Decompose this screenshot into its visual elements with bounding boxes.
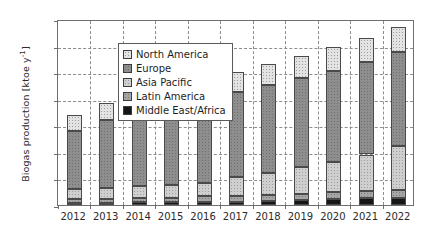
x-tick-mark-7 (285, 205, 286, 209)
bar-2012[interactable] (67, 19, 82, 205)
bar-segment-2020-middle-east-africa[interactable] (326, 199, 341, 205)
bar-2019[interactable] (294, 19, 309, 205)
x-tick-mark-3 (155, 205, 156, 209)
bar-2018[interactable] (261, 19, 276, 205)
bar-segment-2019-middle-east-africa[interactable] (294, 200, 309, 205)
bar-segment-2014-asia-pacific[interactable] (132, 186, 147, 198)
bar-segment-2019-latin-america[interactable] (294, 194, 309, 200)
y-tick-mark-5 (54, 180, 58, 181)
bar-segment-2022-north-america[interactable] (391, 27, 406, 53)
bar-segment-2018-middle-east-africa[interactable] (261, 201, 276, 205)
bar-segment-2012-europe[interactable] (67, 131, 82, 189)
bar-2013[interactable] (99, 19, 114, 205)
legend-item-asia-pacific[interactable]: Asia Pacific (123, 75, 226, 89)
bar-segment-2012-asia-pacific[interactable] (67, 189, 82, 199)
y-tick-mark-10 (54, 154, 58, 155)
x-tick-mark-8 (318, 205, 319, 209)
x-tick-mark-6 (253, 205, 254, 209)
bar-segment-2021-middle-east-africa[interactable] (359, 198, 374, 205)
bar-segment-2018-asia-pacific[interactable] (261, 173, 276, 195)
legend-item-latin-america[interactable]: Latin America (123, 89, 226, 103)
legend-item-europe[interactable]: Europe (123, 61, 226, 75)
legend-item-north-america[interactable]: North America (123, 47, 226, 61)
bar-2021[interactable] (359, 19, 374, 205)
bar-segment-2016-middle-east-africa[interactable] (197, 202, 212, 205)
bar-segment-2022-asia-pacific[interactable] (391, 146, 406, 190)
legend-item-middle-east-africa[interactable]: Middle East/Africa (123, 103, 226, 117)
bar-segment-2020-asia-pacific[interactable] (326, 162, 341, 192)
legend-label: Latin America (136, 91, 205, 102)
bar-segment-2018-latin-america[interactable] (261, 195, 276, 201)
legend-swatch-icon (123, 64, 132, 73)
bar-segment-2017-asia-pacific[interactable] (229, 177, 244, 196)
y-axis-title: Biogas production [ktoe y-1] (19, 19, 31, 209)
bar-segment-2022-middle-east-africa[interactable] (391, 198, 406, 205)
y-axis-title-tail: ] (20, 46, 31, 50)
legend: North AmericaEuropeAsia PacificLatin Ame… (118, 43, 233, 121)
bar-segment-2021-north-america[interactable] (359, 38, 374, 62)
x-tick-mark-10 (383, 205, 384, 209)
x-tick-mark-5 (220, 205, 221, 209)
x-tick-label-2022: 2022 (375, 211, 421, 222)
bar-segment-2015-middle-east-africa[interactable] (164, 202, 179, 205)
legend-label: North America (136, 49, 208, 60)
bar-segment-2016-asia-pacific[interactable] (197, 183, 212, 197)
bar-segment-2019-europe[interactable] (294, 78, 309, 167)
bar-segment-2013-europe[interactable] (99, 120, 114, 188)
bar-segment-2014-latin-america[interactable] (132, 198, 147, 203)
bar-segment-2015-asia-pacific[interactable] (164, 185, 179, 198)
legend-label: Europe (136, 63, 171, 74)
y-tick-mark-30 (54, 48, 58, 49)
bar-segment-2021-asia-pacific[interactable] (359, 155, 374, 191)
y-axis-title-text: Biogas production [ktoe y (20, 57, 31, 182)
bar-segment-2021-latin-america[interactable] (359, 191, 374, 198)
bar-segment-2020-latin-america[interactable] (326, 192, 341, 199)
y-tick-mark-15 (54, 127, 58, 128)
legend-swatch-icon (123, 92, 132, 101)
bar-segment-2017-middle-east-africa[interactable] (229, 202, 244, 205)
bar-segment-2018-north-america[interactable] (261, 64, 276, 85)
x-tick-mark-9 (350, 205, 351, 209)
x-tick-mark-4 (188, 205, 189, 209)
y-tick-mark-35 (54, 21, 58, 22)
biogas-production-chart: Biogas production [ktoe y-1] North Ameri… (0, 0, 424, 236)
bar-segment-2020-europe[interactable] (326, 71, 341, 162)
bar-segment-2012-middle-east-africa[interactable] (67, 203, 82, 205)
legend-label: Asia Pacific (136, 77, 192, 88)
bar-segment-2013-latin-america[interactable] (99, 199, 114, 203)
x-tick-mark-2 (123, 205, 124, 209)
bar-segment-2017-latin-america[interactable] (229, 196, 244, 201)
x-tick-mark-1 (90, 205, 91, 209)
bar-segment-2020-north-america[interactable] (326, 47, 341, 70)
legend-swatch-icon (123, 78, 132, 87)
bar-segment-2022-latin-america[interactable] (391, 190, 406, 198)
bar-segment-2019-asia-pacific[interactable] (294, 167, 309, 194)
bars-container (58, 21, 413, 205)
y-axis-title-exponent: -1 (19, 50, 27, 57)
bar-2020[interactable] (326, 19, 341, 205)
bar-segment-2016-latin-america[interactable] (197, 196, 212, 201)
bar-segment-2012-north-america[interactable] (67, 115, 82, 131)
bar-segment-2013-north-america[interactable] (99, 103, 114, 120)
legend-swatch-icon (123, 50, 132, 59)
bar-segment-2015-latin-america[interactable] (164, 198, 179, 203)
bar-segment-2019-north-america[interactable] (294, 56, 309, 78)
legend-label: Middle East/Africa (136, 105, 226, 116)
legend-swatch-icon (123, 106, 132, 115)
bar-segment-2013-asia-pacific[interactable] (99, 188, 114, 199)
bar-segment-2021-europe[interactable] (359, 62, 374, 154)
y-tick-mark-20 (54, 101, 58, 102)
bar-segment-2012-latin-america[interactable] (67, 199, 82, 203)
bar-segment-2014-middle-east-africa[interactable] (132, 202, 147, 205)
bar-segment-2022-europe[interactable] (391, 52, 406, 146)
bar-2022[interactable] (391, 19, 406, 205)
plot-area: North AmericaEuropeAsia PacificLatin Ame… (57, 20, 414, 206)
y-tick-mark-25 (54, 74, 58, 75)
x-tick-mark-0 (58, 205, 59, 209)
bar-segment-2013-middle-east-africa[interactable] (99, 203, 114, 205)
bar-segment-2018-europe[interactable] (261, 85, 276, 172)
